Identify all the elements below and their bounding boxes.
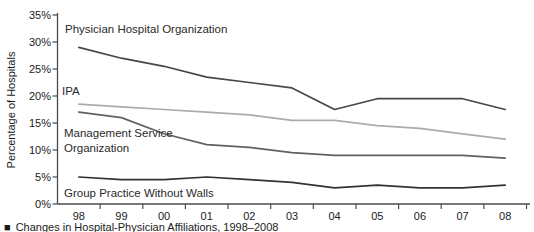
series-label-management-service-organization: Management Service Organization: [64, 126, 173, 156]
figure-caption: ■Changes in Hospital-Physician Affiliati…: [4, 221, 278, 232]
x-tick-label: 08: [489, 210, 521, 222]
series-label-group-practice-without-walls: Group Practice Without Walls: [64, 186, 214, 201]
series-label-mso-line1: Management Service: [64, 126, 173, 141]
y-tick-label: 5%: [21, 171, 51, 183]
y-tick-label: 20%: [21, 90, 51, 102]
y-tick-label: 10%: [21, 144, 51, 156]
x-tick-label: 07: [447, 210, 479, 222]
figure-caption-text: Changes in Hospital-Physician Affiliatio…: [16, 221, 279, 232]
y-tick-label: 0%: [21, 198, 51, 210]
x-tick-label: 03: [276, 210, 308, 222]
series-label-ipa: IPA: [62, 84, 80, 99]
series-label-physician-hospital-organization: Physician Hospital Organization: [65, 22, 227, 37]
x-tick-label: 04: [319, 210, 351, 222]
y-tick-label: 25%: [21, 63, 51, 75]
y-tick-label: 35%: [21, 9, 51, 21]
series-label-mso-line2: Organization: [64, 141, 173, 156]
figure-caption-marker: ■: [4, 221, 11, 232]
x-tick-label: 05: [361, 210, 393, 222]
y-tick-label: 30%: [21, 36, 51, 48]
y-tick-label: 15%: [21, 117, 51, 129]
line-chart: Percentage of Hospitals 35%30%25%20%15%1…: [0, 0, 534, 232]
series-line-physician-hospital-organization: [79, 47, 505, 109]
y-axis-title: Percentage of Hospitals: [5, 35, 17, 185]
x-tick-label: 06: [404, 210, 436, 222]
